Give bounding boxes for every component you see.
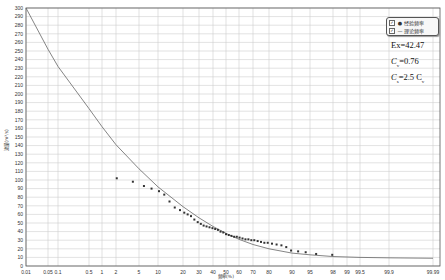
empirical-point <box>290 250 292 252</box>
empirical-point <box>230 235 232 237</box>
empirical-point <box>260 241 262 243</box>
empirical-point <box>225 233 227 235</box>
legend-label: 理论频率 <box>404 27 424 34</box>
theoretical-curve <box>26 8 433 258</box>
empirical-point <box>280 244 282 246</box>
x-tick-label: 5 <box>138 269 141 275</box>
y-tick-label: 10 <box>17 254 23 260</box>
y-tick-label: 170 <box>15 117 24 123</box>
empirical-point <box>209 226 211 228</box>
cv-value: =0.76 <box>399 56 419 66</box>
empirical-point <box>200 223 202 225</box>
x-tick-label: 98 <box>330 269 336 275</box>
empirical-point <box>143 185 145 187</box>
y-tick-label: 70 <box>17 203 23 209</box>
x-axis-title: 频率(%) <box>218 273 234 280</box>
y-tick-label: 300 <box>15 5 24 11</box>
empirical-point <box>228 234 230 236</box>
x-tick-label: 99.5 <box>355 269 365 275</box>
y-axis-title: 流量(m³/s) <box>3 129 10 151</box>
empirical-point <box>214 228 216 230</box>
y-tick-label: 0 <box>20 263 23 269</box>
empirical-point <box>233 236 235 238</box>
x-tick-label: 0.1 <box>55 269 62 275</box>
empirical-point <box>247 238 249 240</box>
y-tick-label: 280 <box>15 22 24 28</box>
empirical-point <box>315 253 317 255</box>
y-tick-label: 160 <box>15 125 24 131</box>
empirical-point <box>163 194 165 196</box>
y-tick-label: 60 <box>17 211 23 217</box>
empirical-point <box>250 239 252 241</box>
y-tick-label: 50 <box>17 220 23 226</box>
y-tick-label: 130 <box>15 151 24 157</box>
y-tick-label: 120 <box>15 160 24 166</box>
legend-label: 经验频率 <box>404 19 424 26</box>
x-tick-label: 10 <box>155 269 161 275</box>
cs-tail-sub: v <box>422 79 425 84</box>
y-tick-label: 200 <box>15 91 24 97</box>
x-tick-label: 2 <box>115 269 118 275</box>
empirical-point <box>257 240 259 242</box>
empirical-point <box>132 181 134 183</box>
y-tick-label: 100 <box>15 177 24 183</box>
x-tick-label: 30 <box>196 269 202 275</box>
empirical-point <box>151 188 153 190</box>
x-tick-label: 60 <box>236 269 242 275</box>
empirical-point <box>242 237 244 239</box>
y-tick-label: 210 <box>15 82 24 88</box>
y-tick-label: 80 <box>17 194 23 200</box>
legend-item-theoretical[interactable]: ✓ — 理论频率 <box>387 27 438 34</box>
x-tick-label: 70 <box>250 269 256 275</box>
y-tick-label: 220 <box>15 74 24 80</box>
empirical-point <box>244 238 246 240</box>
empirical-point <box>169 201 171 203</box>
x-tick-label: 0.5 <box>86 269 93 275</box>
empirical-point <box>183 212 185 214</box>
y-tick-label: 230 <box>15 65 24 71</box>
x-tick-label: 99.9 <box>384 269 394 275</box>
checkbox-icon[interactable]: ✓ <box>389 28 395 34</box>
y-tick-label: 180 <box>15 108 24 114</box>
mean-annotation: Ex=42.47 <box>391 40 424 50</box>
line-marker-icon: — <box>397 28 403 34</box>
empirical-point <box>263 242 265 244</box>
empirical-point <box>193 219 195 221</box>
empirical-point <box>222 231 224 233</box>
y-tick-label: 40 <box>17 228 23 234</box>
plot-area: 0102030405060708090100110120130140150160… <box>0 0 445 280</box>
x-tick-label: 0.05 <box>43 269 53 275</box>
x-tick-label: 90 <box>289 269 295 275</box>
empirical-point <box>220 231 222 233</box>
empirical-point <box>179 209 181 211</box>
checkbox-icon[interactable]: ✓ <box>389 20 395 26</box>
x-tick-label: 1 <box>101 269 104 275</box>
x-tick-label: 40 <box>210 269 216 275</box>
cv-annotation: Cv=0.76 <box>391 56 419 68</box>
empirical-point <box>190 215 192 217</box>
empirical-point <box>253 239 255 241</box>
empirical-point <box>211 227 213 229</box>
dot-marker-icon: ● <box>397 20 403 26</box>
empirical-point <box>206 225 208 227</box>
empirical-point <box>239 237 241 239</box>
legend-item-empirical[interactable]: ✓ ● 经验频率 <box>387 19 438 26</box>
x-tick-label: 99 <box>344 269 350 275</box>
y-tick-label: 150 <box>15 134 24 140</box>
cs-annotation: Cs=2.5 Cv <box>391 72 424 84</box>
y-tick-label: 30 <box>17 237 23 243</box>
empirical-point <box>305 251 307 253</box>
legend: ✓ ● 经验频率 ✓ — 理论频率 <box>386 17 439 36</box>
y-tick-label: 290 <box>15 13 24 19</box>
x-tick-label: 20 <box>180 269 186 275</box>
empirical-point <box>276 244 278 246</box>
empirical-point <box>203 225 205 227</box>
empirical-point <box>217 229 219 231</box>
x-tick-label: 80 <box>266 269 272 275</box>
empirical-point <box>267 242 269 244</box>
empirical-point <box>271 243 273 245</box>
empirical-point <box>297 250 299 252</box>
y-tick-label: 240 <box>15 56 24 62</box>
empirical-point <box>285 246 287 248</box>
empirical-point <box>331 254 333 256</box>
